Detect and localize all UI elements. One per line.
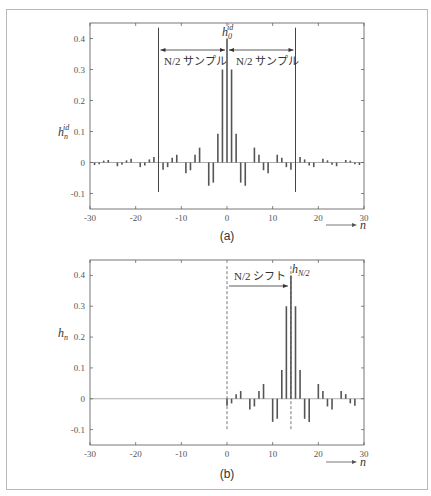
y-tick-label: -0.1 (71, 189, 85, 199)
y-tick-label: 0.4 (74, 270, 86, 280)
panel-b: -30-20-100102030-0.100.10.20.30.4n(b)hnh… (58, 260, 369, 481)
y-tick-label: 0.4 (74, 34, 86, 44)
y-tick-label: 0 (81, 158, 86, 168)
x-tick-label: 20 (314, 449, 324, 459)
x-axis-label: n (360, 455, 366, 469)
y-tick-label: 0 (81, 394, 86, 404)
peak-label: hN/2 (292, 262, 310, 278)
y-tick-label: 0.2 (74, 96, 85, 106)
x-tick-label: 0 (225, 449, 230, 459)
y-tick-label: 0.2 (74, 332, 85, 342)
y-tick-label: 0.1 (74, 127, 85, 137)
x-tick-label: 0 (225, 213, 230, 223)
peak-label: h0id (222, 23, 234, 41)
x-tick-label: 10 (268, 449, 278, 459)
y-axis-label: hn (58, 326, 68, 342)
x-tick-label: -20 (130, 213, 142, 223)
x-axis-label: n (360, 218, 366, 232)
shift-label: N/2 シフト (234, 270, 286, 282)
y-axis-label: hnid (58, 123, 70, 141)
x-tick-label: -10 (175, 449, 187, 459)
x-tick-label: -30 (84, 449, 96, 459)
samples-label-right: N/2 サンプル (236, 55, 299, 67)
y-tick-label: 0.3 (74, 301, 86, 311)
panel-caption: (b) (220, 467, 235, 481)
y-tick-label: -0.1 (71, 425, 85, 435)
x-tick-label: -10 (175, 213, 187, 223)
y-tick-label: 0.1 (74, 363, 85, 373)
x-tick-label: 20 (314, 213, 324, 223)
panel-caption: (a) (220, 229, 235, 243)
panel-a: -30-20-100102030-0.100.10.20.30.4n(a)hni… (58, 23, 369, 243)
figure-canvas: -30-20-100102030-0.100.10.20.30.4n(a)hni… (0, 0, 431, 496)
x-tick-label: 10 (268, 213, 278, 223)
y-tick-label: 0.3 (74, 65, 86, 75)
samples-label-left: N/2 サンプル (164, 55, 227, 67)
x-tick-label: -20 (130, 449, 142, 459)
x-tick-label: -30 (84, 213, 96, 223)
